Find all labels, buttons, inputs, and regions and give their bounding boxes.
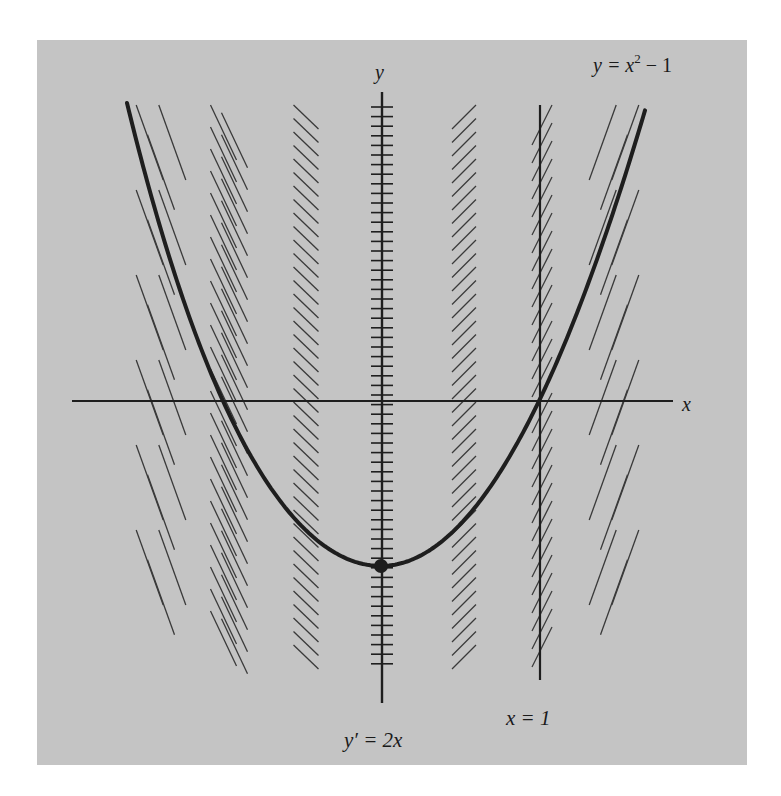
x-axis-label: x — [682, 394, 691, 414]
isocline-axis-label: y′ = 2x — [344, 730, 402, 751]
curve-equation-label: y = x2 − 1 — [593, 52, 672, 75]
direction-field-figure — [0, 0, 781, 796]
vertical-line-label: x = 1 — [506, 708, 551, 729]
curve-equation-rhs: − 1 — [641, 54, 672, 76]
curve-equation-lhs: y = x — [593, 54, 634, 76]
figure-panel — [37, 40, 747, 765]
y-axis-label: y — [375, 62, 384, 82]
vertex-point — [374, 559, 388, 573]
